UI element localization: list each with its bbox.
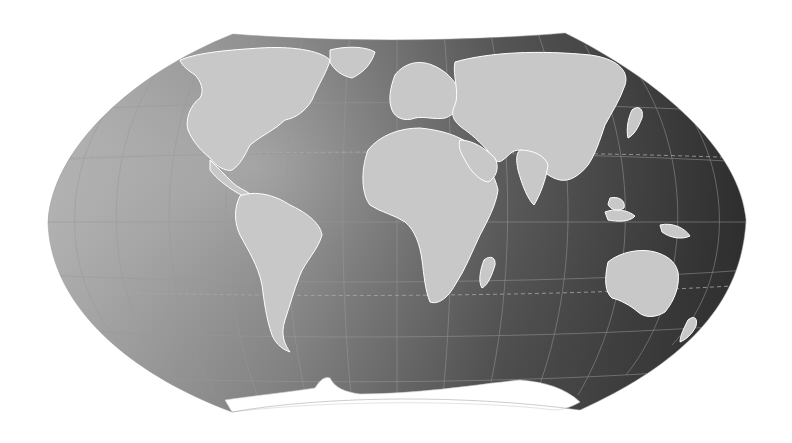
- world-map-svg: [0, 0, 792, 443]
- world-map: [0, 0, 792, 443]
